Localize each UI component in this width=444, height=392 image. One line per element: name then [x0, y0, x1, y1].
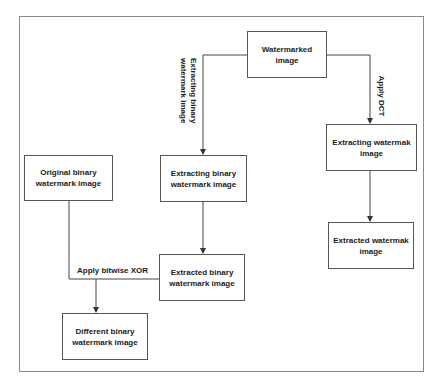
node-label: Extracted binary watermark image	[164, 267, 240, 289]
node-label: Extracting watermak image	[331, 137, 412, 159]
edge-label-apply-dct: Apply DCT	[376, 75, 386, 117]
node-label: Extracting binary watermark image	[165, 168, 242, 190]
node-extracted-watermak-image: Extracted watermak image	[328, 222, 414, 269]
edge-label-extracting-binary: Extracting binary watermark image	[178, 58, 198, 116]
node-label: Original binary watermark image	[29, 167, 108, 189]
node-original-binary-watermark: Original binary watermark image	[24, 155, 113, 201]
node-extracting-binary-watermark: Extracting binary watermark image	[160, 155, 247, 202]
edge-label-line: Apply DCT	[376, 75, 386, 117]
node-label: Extracted watermak image	[333, 235, 409, 257]
node-different-binary-watermark: Different binary watermark image	[62, 313, 148, 360]
edge-label-line: watermark image	[178, 58, 188, 116]
node-watermarked-image: Watermarked image	[247, 31, 327, 78]
node-label: Watermarked image	[252, 44, 322, 66]
node-label: Different binary watermark image	[67, 326, 143, 348]
node-extracted-binary-watermark: Extracted binary watermark image	[159, 254, 245, 301]
edge-label-line: Extracting binary	[188, 58, 198, 116]
node-extracting-watermak-image: Extracting watermak image	[326, 124, 417, 171]
edge-label-apply-xor: Apply bitwise XOR	[77, 266, 148, 276]
